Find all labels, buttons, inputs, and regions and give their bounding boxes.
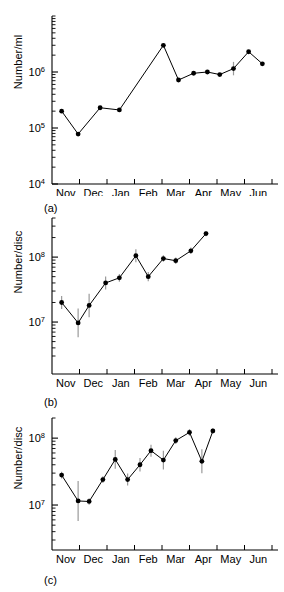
data-series-line (62, 45, 263, 134)
data-point (161, 458, 166, 463)
x-tick-label: Jan (112, 553, 130, 565)
y-tick-label: 108 (29, 431, 45, 445)
x-tick-label: Feb (139, 553, 158, 565)
data-point (161, 43, 166, 48)
x-tick-label: Apr (195, 553, 212, 565)
data-point (98, 105, 103, 110)
data-point (210, 429, 215, 434)
panel-c-plot: 108107NovDecJanFebMarAprMayJun (0, 394, 284, 592)
y-tick-label: 107 (29, 498, 45, 512)
panel-a-plot: 106105104NovDecJanFebMarAprMayJun (0, 0, 284, 196)
data-point (191, 71, 196, 76)
y-tick-label: 107 (29, 315, 45, 329)
data-point (87, 499, 92, 504)
data-point (76, 321, 81, 326)
data-point (100, 477, 105, 482)
panel-c-caption: (c) (44, 574, 57, 586)
x-tick-label: Jun (249, 553, 267, 565)
data-point (205, 70, 210, 75)
y-tick-label: 106 (29, 65, 45, 79)
figure-container: 106105104NovDecJanFebMarAprMayJun Number… (0, 0, 284, 592)
x-tick-label: Apr (195, 187, 212, 196)
x-tick-label: Nov (56, 377, 76, 389)
data-point (246, 49, 251, 54)
data-point (161, 256, 166, 261)
x-tick-label: May (220, 377, 241, 389)
data-point (87, 303, 92, 308)
data-point (231, 66, 236, 71)
data-point (103, 281, 108, 286)
data-point (260, 61, 265, 66)
x-tick-label: Jun (249, 187, 267, 196)
data-point (173, 258, 178, 263)
data-point (113, 457, 118, 462)
x-tick-label: Apr (195, 377, 212, 389)
data-point (187, 430, 192, 435)
y-tick-label: 108 (29, 250, 45, 264)
x-tick-label: May (220, 553, 241, 565)
data-point (199, 459, 204, 464)
panel-a: 106105104NovDecJanFebMarAprMayJun Number… (0, 0, 284, 196)
panel-b-ylabel: Number/disc (12, 202, 24, 322)
data-point (149, 448, 154, 453)
data-point (146, 274, 151, 279)
data-point (59, 473, 64, 478)
x-tick-label: Nov (56, 553, 76, 565)
x-tick-label: Feb (139, 187, 158, 196)
data-point (59, 109, 64, 114)
panel-b: 108107NovDecJanFebMarAprMayJun Number/di… (0, 196, 284, 394)
data-point (138, 462, 143, 467)
x-tick-label: Mar (166, 377, 185, 389)
data-point (133, 253, 138, 258)
x-tick-label: Dec (83, 187, 103, 196)
data-point (173, 438, 178, 443)
data-point (59, 300, 64, 305)
data-point (176, 78, 181, 83)
data-point (117, 108, 122, 113)
data-series-line (62, 234, 206, 323)
panel-c-ylabel: Number/disc (12, 398, 24, 518)
x-tick-label: May (220, 187, 241, 196)
panel-c: 108107NovDecJanFebMarAprMayJun Number/di… (0, 394, 284, 592)
x-tick-label: Dec (83, 377, 103, 389)
data-point (217, 72, 222, 77)
data-point (76, 499, 81, 504)
x-tick-label: Mar (166, 187, 185, 196)
data-series-line (62, 431, 213, 502)
data-point (76, 132, 81, 137)
y-tick-label: 104 (29, 177, 45, 191)
x-tick-label: Dec (83, 553, 103, 565)
x-tick-label: Jan (112, 377, 130, 389)
x-tick-label: Mar (166, 553, 185, 565)
x-tick-label: Feb (139, 377, 158, 389)
x-tick-label: Jan (112, 187, 130, 196)
x-tick-label: Nov (56, 187, 76, 196)
data-point (117, 275, 122, 280)
panel-a-ylabel: Number/ml (12, 2, 24, 122)
data-point (188, 248, 193, 253)
x-tick-label: Jun (249, 377, 267, 389)
data-point (204, 231, 209, 236)
panel-b-plot: 108107NovDecJanFebMarAprMayJun (0, 196, 284, 394)
data-point (125, 477, 130, 482)
y-tick-label: 105 (29, 121, 45, 135)
